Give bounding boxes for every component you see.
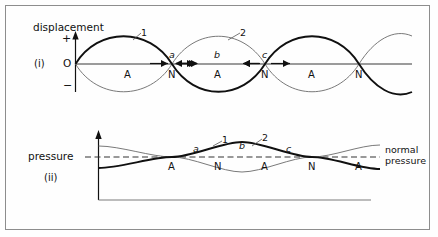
panel-i-curve-2 [76, 34, 413, 92]
panel-i-curve-1-label: 1 [141, 28, 147, 38]
panel-ii-point-a-label: a [193, 144, 199, 154]
panel-i-antinode-label-3: A [308, 70, 315, 80]
origin-label: O [63, 58, 71, 69]
panel-i-antinode-label-1: A [124, 70, 131, 80]
normal-pressure-label-line2: pressure [385, 156, 426, 167]
panel-i-curve-2-label: 2 [240, 28, 246, 38]
panel-ii-antinode-label-3: A [355, 162, 362, 172]
panel-ii-antinode-label-2: A [261, 162, 268, 172]
physics-standing-wave-figure: displacement + − (i) O 1 2 a b c A N A N… [0, 0, 438, 237]
panel-ii-label: (ii) [44, 173, 57, 183]
panel-i-curve-1 [76, 36, 413, 94]
displacement-axis-label: displacement [33, 22, 104, 33]
panel-i-node-label-2: N [261, 70, 268, 80]
panel-ii-curve-2-label: 2 [262, 133, 268, 143]
positive-sign-label: + [62, 33, 71, 44]
pressure-axis-label: pressure [28, 151, 73, 162]
panel-i-label: (i) [34, 59, 45, 69]
panel-ii-vertical-axis [95, 130, 101, 200]
panel-i-node-label-3: N [355, 70, 362, 80]
panel-i-point-a-label: a [169, 50, 175, 60]
panel-i-node-label-1: N [168, 70, 175, 80]
panel-ii-curve-1-label: 1 [222, 135, 228, 145]
panel-ii-node-label-2: N [308, 162, 315, 172]
panel-i-point-c-label: c [262, 50, 267, 60]
panel-i-point-b-label: b [214, 50, 220, 60]
panel-i-antinode-label-2: A [214, 70, 221, 80]
panel-ii-node-label-1: N [214, 162, 221, 172]
panel-ii-point-c-label: c [286, 144, 291, 154]
panel-ii-antinode-label-1: A [168, 162, 175, 172]
panel-ii-point-b-label: b [239, 141, 245, 151]
negative-sign-label: − [63, 80, 72, 91]
